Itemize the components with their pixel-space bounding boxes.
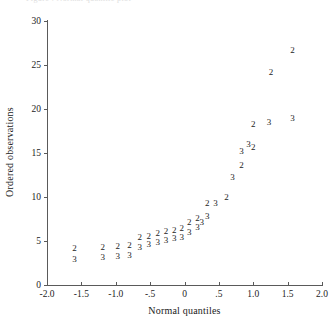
data-point-2: 2 bbox=[187, 218, 192, 227]
data-point-2: 2 bbox=[127, 241, 132, 250]
data-point-3: 3 bbox=[116, 251, 121, 260]
data-point-3: 3 bbox=[127, 251, 132, 260]
data-point-3: 3 bbox=[187, 228, 192, 237]
data-point-3: 3 bbox=[138, 243, 143, 252]
data-point-3: 3 bbox=[147, 239, 152, 248]
data-point-3: 3 bbox=[155, 237, 160, 246]
data-point-2: 2 bbox=[290, 45, 295, 54]
data-point-2: 2 bbox=[116, 242, 121, 251]
scatter-points-layer: 222222222222222222233333333333333333333 bbox=[0, 0, 332, 326]
data-point-3: 3 bbox=[100, 252, 105, 261]
data-point-3: 3 bbox=[230, 173, 235, 182]
data-point-3: 3 bbox=[267, 117, 272, 126]
data-point-3: 3 bbox=[164, 236, 169, 245]
data-point-2: 2 bbox=[138, 232, 143, 241]
data-point-2: 2 bbox=[224, 192, 229, 201]
data-point-3: 3 bbox=[72, 254, 77, 263]
data-point-2: 2 bbox=[205, 199, 210, 208]
data-point-3: 3 bbox=[290, 113, 295, 122]
data-point-2: 2 bbox=[269, 67, 274, 76]
data-point-2: 2 bbox=[100, 243, 105, 252]
data-point-3: 3 bbox=[246, 139, 251, 148]
data-point-2: 2 bbox=[72, 244, 77, 253]
data-point-2: 2 bbox=[251, 142, 256, 151]
data-point-2: 2 bbox=[239, 161, 244, 170]
data-point-3: 3 bbox=[180, 232, 185, 241]
qq-plot-figure: Figure . Normal quantile plot -2.0-1.5-1… bbox=[0, 0, 332, 326]
data-point-3: 3 bbox=[172, 234, 177, 243]
data-point-3: 3 bbox=[213, 199, 218, 208]
data-point-3: 3 bbox=[199, 217, 204, 226]
data-point-3: 3 bbox=[239, 147, 244, 156]
data-point-2: 2 bbox=[251, 119, 256, 128]
data-point-3: 3 bbox=[205, 212, 210, 221]
